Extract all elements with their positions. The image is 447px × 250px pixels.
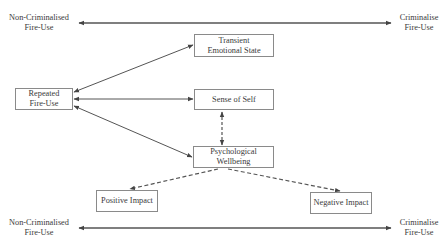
edge-wellbeing-negative [228,169,340,191]
top-right-label: Criminalise Fire-Use [392,13,446,33]
edge-repeated-wellbeing [74,106,192,157]
edge-wellbeing-positive [130,169,218,189]
node-negative-impact: Negative Impact [310,192,372,214]
node-positive-impact: Positive Impact [96,190,158,212]
top-left-label: Non-Criminalised Fire-Use [2,13,76,33]
node-repeated-fire-use: Repeated Fire-Use [15,88,73,110]
node-transient-emotional-state: Transient Emotional State [194,34,274,57]
bottom-left-label: Non-Criminalised Fire-Use [2,218,76,238]
node-sense-of-self: Sense of Self [194,89,274,110]
node-psychological-wellbeing: Psychological Wellbeing [193,146,274,168]
bottom-right-label: Criminalise Fire-Use [392,218,446,238]
diagram-canvas: Non-Criminalised Fire-Use Criminalise Fi… [0,0,447,250]
edge-repeated-transient [74,45,193,92]
